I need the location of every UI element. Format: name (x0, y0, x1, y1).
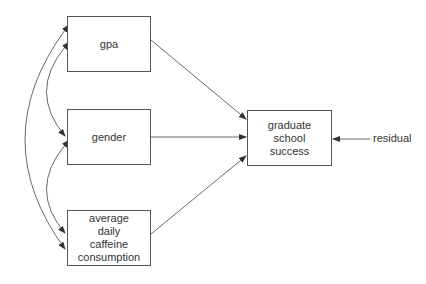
node-gender: gender (67, 109, 151, 165)
node-caffeine-line-1: average (89, 212, 129, 225)
node-outcome-line-2: school (274, 132, 306, 145)
edge-gpa-to-outcome (151, 40, 246, 119)
node-caffeine-line-3: caffeine (90, 238, 128, 251)
residual-label: residual (373, 132, 412, 144)
node-gpa-label: gpa (100, 38, 118, 51)
node-caffeine-line-4: consumption (78, 251, 140, 264)
node-caffeine-line-2: daily (98, 225, 121, 238)
edge-caffeine-to-outcome (151, 156, 246, 234)
node-gender-label: gender (92, 131, 126, 144)
node-outcome-line-3: success (270, 145, 310, 158)
diagram-edges (0, 0, 426, 284)
node-outcome-line-1: graduate (268, 119, 311, 132)
covariance-gender-caffeine (47, 145, 66, 233)
covariance-gpa-gender (47, 47, 66, 136)
node-outcome: graduate school success (247, 110, 332, 166)
covariance-gpa-caffeine (25, 30, 65, 249)
node-gpa: gpa (67, 16, 151, 72)
node-caffeine: average daily caffeine consumption (67, 210, 151, 266)
